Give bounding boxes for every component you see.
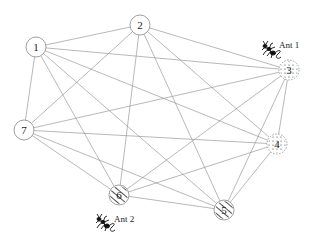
- edge-6-7: [32, 136, 110, 190]
- edge-2-6: [120, 35, 139, 185]
- node-label: 1: [33, 41, 39, 53]
- edge-1-7: [25, 57, 34, 120]
- node-2[interactable]: 2: [130, 15, 150, 35]
- edge-4-7: [34, 131, 267, 144]
- node-label: 7: [21, 124, 27, 136]
- edge-1-5: [44, 54, 217, 204]
- node-label: 3: [286, 64, 292, 76]
- edge-2-7: [31, 32, 132, 124]
- ant-icon: [96, 214, 115, 231]
- edge-1-3: [46, 48, 279, 69]
- node-label: 2: [137, 19, 143, 31]
- edge-2-3: [150, 28, 280, 67]
- node-label: 6: [116, 189, 122, 201]
- node-5[interactable]: 5: [214, 200, 234, 220]
- ant-2: Ant 2: [96, 214, 134, 231]
- node-4[interactable]: 4: [267, 134, 287, 154]
- ant-label: Ant 2: [114, 214, 134, 224]
- node-1[interactable]: 1: [26, 37, 46, 57]
- edge-4-6: [129, 147, 268, 192]
- edge-3-4: [279, 80, 288, 134]
- graph-svg: 1234567 Ant 1Ant 2: [0, 0, 314, 244]
- edge-1-4: [45, 51, 267, 141]
- ant-1: Ant 1: [262, 40, 299, 58]
- graph-diagram: 1234567 Ant 1Ant 2: [0, 0, 314, 244]
- ant-label: Ant 1: [279, 40, 299, 50]
- node-7[interactable]: 7: [14, 120, 34, 140]
- edge-4-5: [230, 152, 270, 202]
- node-3[interactable]: 3: [279, 60, 299, 80]
- edges-layer: [25, 27, 287, 209]
- edge-5-6: [129, 196, 214, 208]
- node-label: 4: [274, 138, 280, 150]
- node-label: 5: [221, 204, 227, 216]
- node-6[interactable]: 6: [109, 185, 129, 205]
- edge-1-2: [46, 27, 130, 45]
- edge-2-5: [144, 34, 220, 201]
- nodes-layer: 1234567: [14, 15, 299, 220]
- edge-2-4: [148, 32, 270, 138]
- edge-3-7: [34, 72, 279, 128]
